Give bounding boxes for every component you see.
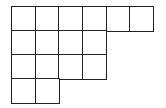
diagram-cell — [35, 78, 60, 104]
diagram-cell — [11, 78, 36, 104]
diagram-cell — [82, 6, 107, 32]
young-diagram — [0, 0, 166, 108]
diagram-cell — [35, 54, 60, 80]
diagram-cell — [58, 54, 83, 80]
diagram-cell — [35, 30, 60, 56]
diagram-cell — [58, 30, 83, 56]
diagram-cell — [35, 6, 60, 32]
diagram-cell — [82, 54, 107, 80]
diagram-cell — [58, 6, 83, 32]
diagram-cell — [106, 6, 131, 32]
diagram-cell — [11, 54, 36, 80]
diagram-cell — [129, 6, 154, 32]
diagram-cell — [11, 6, 36, 32]
diagram-cell — [11, 30, 36, 56]
diagram-cell — [82, 30, 107, 56]
